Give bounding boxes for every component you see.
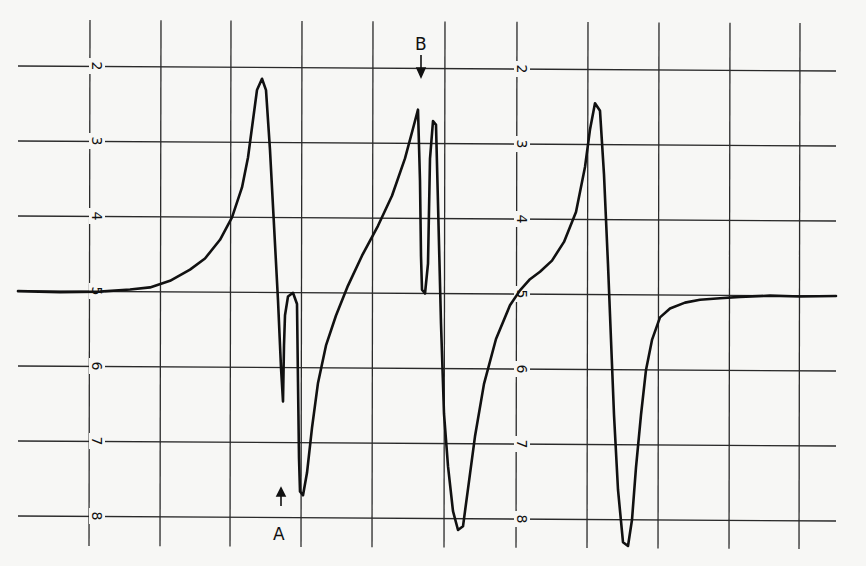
- vertical-gridline: [444, 22, 445, 548]
- spectrum-trace: [18, 79, 836, 546]
- vertical-gridline: [729, 23, 730, 549]
- scale-tick-label: 2: [89, 62, 105, 71]
- spectrum-chart: 2345678 2345678 A B: [0, 0, 866, 566]
- horizontal-gridline: [18, 516, 836, 521]
- arrow-down-head-icon: [417, 68, 425, 77]
- vertical-gridline: [230, 21, 231, 547]
- horizontal-gridline: [18, 141, 836, 146]
- scale-tick-label: 2: [514, 65, 530, 74]
- vertical-gridline: [658, 22, 659, 548]
- scale-tick-label: 7: [514, 440, 530, 449]
- marker-b-label: B: [415, 34, 427, 54]
- horizontal-gridline: [18, 441, 836, 446]
- scale-tick-label: 3: [514, 140, 530, 149]
- arrow-up-head-icon: [277, 488, 285, 496]
- vertical-gridline: [372, 21, 373, 547]
- scale-tick-label: 4: [514, 215, 530, 224]
- scale-tick-label: 6: [514, 365, 530, 374]
- scale-tick-label: 8: [89, 512, 105, 521]
- scale-tick-label: 6: [89, 362, 105, 371]
- vertical-gridline: [301, 21, 302, 547]
- marker-a-label: A: [273, 524, 285, 544]
- vertical-gridline: [516, 22, 517, 548]
- horizontal-gridline: [18, 216, 836, 221]
- marker-b: B: [415, 34, 427, 77]
- horizontal-gridline: [18, 291, 836, 296]
- horizontal-gridline: [18, 66, 836, 71]
- horizontal-gridline: [18, 366, 836, 371]
- scale-tick-label: 3: [89, 137, 105, 146]
- scale-tick-label: 7: [89, 437, 105, 446]
- scale-tick-label: 8: [514, 515, 530, 524]
- marker-a: A: [273, 488, 285, 544]
- vertical-gridline: [587, 22, 588, 548]
- scale-tick-label: 4: [89, 212, 105, 221]
- vertical-gridline: [799, 23, 800, 549]
